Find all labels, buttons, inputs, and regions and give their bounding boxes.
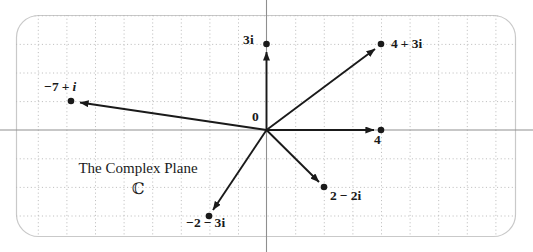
imaginary-unit-glyph: i [73,79,77,94]
origin-label: 0 [252,110,259,124]
complex-set-symbol: ℂ [58,179,218,200]
point-label-neg2-minus-3i: −2 − 3i [186,216,225,230]
point-label-neg7-plus-i: −7 + i [44,80,77,94]
point-2-minus-2i [321,184,328,191]
complex-plane-figure: −7 + i 4 + 3i 3i 4 2 − 2i −2 − 3i 0 The … [0,0,533,252]
point-label-neg7-plus-i-text: −7 + [44,79,73,94]
point-4-plus-3i [378,41,385,48]
caption-block: The Complex Plane ℂ [58,160,218,200]
point-3i [263,41,270,48]
point-neg7-plus-i [68,98,75,105]
complex-plane-canvas [0,0,533,252]
point-label-4: 4 [374,133,381,147]
point-label-4-plus-3i: 4 + 3i [391,37,423,51]
point-label-3i: 3i [243,33,254,47]
point-label-2-minus-2i: 2 − 2i [330,189,362,203]
caption-title: The Complex Plane [58,160,218,177]
